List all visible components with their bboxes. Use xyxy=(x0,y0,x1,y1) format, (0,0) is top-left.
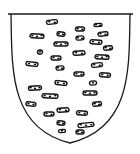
billet-icon xyxy=(46,19,57,24)
billet-icon xyxy=(99,73,110,78)
billet-icon xyxy=(103,46,112,51)
billet-icon xyxy=(56,66,64,70)
billet-icon xyxy=(98,31,108,36)
billet-icon xyxy=(76,27,85,31)
billet-icon xyxy=(91,62,102,67)
billet-icon xyxy=(57,32,65,37)
billet-icon xyxy=(30,34,44,39)
billet-icon xyxy=(76,130,84,134)
billet-icon xyxy=(89,81,96,86)
billet-icon xyxy=(76,111,87,116)
shield-outline xyxy=(8,14,133,143)
billet-icon xyxy=(90,40,102,45)
billet-icon xyxy=(78,122,94,128)
figure-canvas xyxy=(0,0,140,154)
billet-icon xyxy=(51,56,61,60)
billet-icon xyxy=(92,102,101,107)
billet-icon xyxy=(57,121,65,126)
billet-icon xyxy=(74,72,84,76)
billet-icon xyxy=(26,101,36,106)
billet-icon xyxy=(54,42,68,46)
billet-icon xyxy=(37,50,42,55)
billet-icon xyxy=(57,108,69,113)
billet-icon xyxy=(76,36,84,40)
shield-figure xyxy=(0,0,140,154)
billet-icon xyxy=(26,61,38,66)
billet-icon xyxy=(28,86,41,91)
billet-icon xyxy=(55,80,67,85)
billet-icon xyxy=(95,55,109,60)
billet-icon xyxy=(58,129,65,132)
billet-icon xyxy=(44,112,54,116)
billet-icon xyxy=(94,23,102,26)
billet-icon xyxy=(73,51,85,56)
billet-icon xyxy=(83,91,97,95)
billet-icon xyxy=(42,94,58,99)
